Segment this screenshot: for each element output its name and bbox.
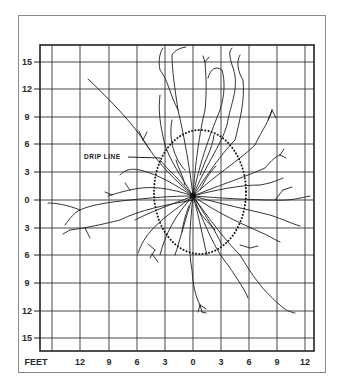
y-label: 9 xyxy=(24,278,29,288)
y-label: 9 xyxy=(24,112,29,122)
root-spread-diagram: 15 12 9 6 3 0 3 6 9 12 15 FEET 12 9 6 3 … xyxy=(0,0,340,390)
unit-label: FEET xyxy=(24,357,47,367)
plot-frame xyxy=(40,45,314,351)
y-label: 12 xyxy=(22,84,32,94)
x-label: 6 xyxy=(246,357,251,367)
y-label: 15 xyxy=(22,333,32,343)
x-label: 9 xyxy=(274,357,279,367)
y-label: 15 xyxy=(22,57,32,67)
x-label: 6 xyxy=(134,357,139,367)
y-label: 0 xyxy=(24,195,29,205)
x-label: 3 xyxy=(162,357,167,367)
x-label: 12 xyxy=(300,357,310,367)
x-label: 3 xyxy=(218,357,223,367)
x-label: 12 xyxy=(75,357,85,367)
grid-vertical xyxy=(52,45,305,351)
y-label: 3 xyxy=(24,167,29,177)
x-label: 9 xyxy=(106,357,111,367)
plot-area xyxy=(0,0,340,390)
x-label: 0 xyxy=(190,357,195,367)
y-label: 12 xyxy=(22,306,32,316)
trunk-center xyxy=(190,193,196,199)
y-label: 6 xyxy=(24,139,29,149)
y-label: 6 xyxy=(24,250,29,260)
drip-line-circle xyxy=(154,130,246,254)
roots xyxy=(48,47,310,313)
y-label: 3 xyxy=(24,223,29,233)
drip-line-label: DRIP LINE xyxy=(84,153,121,160)
